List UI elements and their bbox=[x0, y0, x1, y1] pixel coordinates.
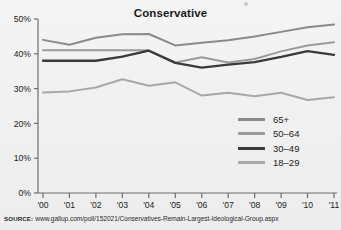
series-line bbox=[43, 25, 334, 46]
legend-item-label: 65+ bbox=[273, 114, 289, 125]
y-tick-label: 0% bbox=[19, 188, 32, 198]
legend-swatch-icon bbox=[238, 161, 265, 164]
y-tick-label: 40% bbox=[14, 49, 32, 59]
x-tick-label: '03 bbox=[117, 200, 128, 210]
x-tick-label: '01 bbox=[64, 200, 75, 210]
y-tick-label: 10% bbox=[14, 153, 32, 163]
legend-item-label: 50–64 bbox=[273, 128, 299, 139]
x-axis: '00'01'02'03'04'05'06'07'08'09'10'11 bbox=[37, 193, 339, 210]
legend-swatch-icon bbox=[238, 118, 265, 121]
y-tick-label: 20% bbox=[14, 119, 32, 129]
chart-legend: 65+ 50–64 30–49 18–29 bbox=[238, 112, 334, 170]
y-tick-label: 30% bbox=[14, 84, 32, 94]
x-tick-label: '11 bbox=[329, 200, 340, 210]
source-url: www.gallup.com/poll/152021/Conservatives… bbox=[35, 215, 278, 222]
x-tick-label: '05 bbox=[170, 200, 181, 210]
legend-item-18-29[interactable]: 18–29 bbox=[238, 156, 334, 171]
x-tick-label: '08 bbox=[249, 200, 260, 210]
x-tick-label: '10 bbox=[302, 200, 313, 210]
series-line bbox=[43, 79, 334, 100]
x-tick-label: '09 bbox=[275, 200, 286, 210]
x-tick-label: '00 bbox=[37, 200, 48, 210]
source-label: SOURCE: bbox=[4, 215, 33, 222]
legend-item-30-49[interactable]: 30–49 bbox=[238, 141, 334, 156]
chart-figure: Conservative 0%10%20%30%40%50% '00'01'02… bbox=[0, 0, 341, 230]
legend-item-50-64[interactable]: 50–64 bbox=[238, 127, 334, 142]
x-tick-label: '06 bbox=[196, 200, 207, 210]
legend-item-label: 30–49 bbox=[273, 143, 299, 154]
source-note: SOURCE:www.gallup.com/poll/152021/Conser… bbox=[4, 215, 278, 222]
legend-swatch-icon bbox=[238, 147, 265, 150]
y-tick-label: 50% bbox=[14, 14, 32, 24]
legend-item-65plus[interactable]: 65+ bbox=[238, 112, 334, 127]
line-chart-plot: 0%10%20%30%40%50% '00'01'02'03'04'05'06'… bbox=[0, 0, 341, 212]
x-tick-label: '07 bbox=[223, 200, 234, 210]
x-tick-label: '04 bbox=[143, 200, 154, 210]
legend-item-label: 18–29 bbox=[273, 157, 299, 168]
legend-swatch-icon bbox=[238, 132, 265, 135]
data-series-group bbox=[43, 25, 334, 101]
x-tick-label: '02 bbox=[90, 200, 101, 210]
series-line bbox=[43, 42, 334, 62]
y-axis: 0%10%20%30%40%50% bbox=[14, 14, 38, 198]
